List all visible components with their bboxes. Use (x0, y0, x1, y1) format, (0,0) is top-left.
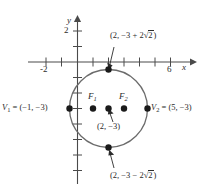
focus-2-dot (121, 105, 127, 111)
focus-2-subscript: 2 (125, 95, 128, 102)
y-axis (73, 15, 82, 184)
focus-1-subscript: 1 (94, 95, 97, 102)
focus-1-dot (90, 105, 96, 111)
vertex-2-value: = (5, −3) (159, 102, 191, 112)
y-tick-label-2: 2 (64, 26, 69, 35)
x-tick-label-6: 6 (167, 65, 172, 74)
bottom-point-label-prefix: (2, −3 − 2 (110, 170, 144, 180)
vertex-2-subscript: 2 (156, 106, 159, 113)
focus-2-label: F2 (119, 92, 128, 101)
focus-2-letter: F (119, 91, 125, 101)
vertex-2-dot (144, 105, 150, 111)
focus-1-label: F1 (88, 92, 97, 101)
focus-1-letter: F (88, 91, 94, 101)
vertex-1-subscript: 1 (7, 106, 10, 113)
circle-coordinate-figure: y 2 x -2 6 (2, −3 + 2√2) (2, −3 − 2√2) (… (0, 0, 213, 191)
vertex-2-label: V2 = (5, −3) (151, 103, 192, 112)
bottom-point-label-suffix: ) (154, 170, 157, 180)
x-axis-label: x (182, 63, 186, 72)
center-point-label: (2, −3) (97, 122, 120, 131)
y-axis-label: y (67, 16, 71, 25)
center-point-dot (105, 105, 111, 111)
top-point-label: (2, −3 + 2√2) (110, 30, 156, 40)
bottom-point-label: (2, −3 − 2√2) (110, 170, 156, 180)
vertex-1-value: = (−1, −3) (10, 102, 47, 112)
top-point-label-prefix: (2, −3 + 2 (110, 30, 144, 40)
bottom-point-dot (105, 144, 111, 150)
figure-canvas (0, 0, 213, 191)
top-point-dot (105, 66, 111, 72)
vertex-1-dot (66, 105, 72, 111)
x-tick-label-neg2: -2 (40, 65, 48, 74)
vertex-1-label: V1 = (−1, −3) (2, 103, 48, 112)
top-point-label-suffix: ) (154, 30, 157, 40)
